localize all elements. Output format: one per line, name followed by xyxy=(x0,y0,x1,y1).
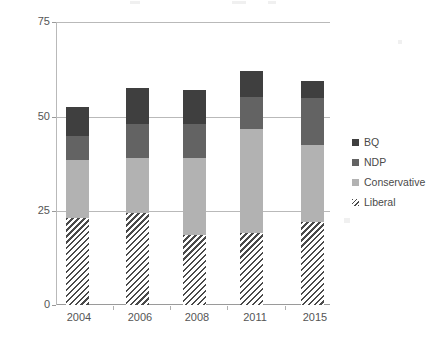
bar-segment-cons-2011[interactable] xyxy=(240,129,263,233)
bar-segment-lib-2004[interactable] xyxy=(66,218,89,305)
bar-segment-lib-2006[interactable] xyxy=(126,213,149,305)
scan-artifact xyxy=(344,218,350,223)
bar-segment-ndp-2006[interactable] xyxy=(126,124,149,158)
legend-label-conservative: Conservative xyxy=(364,176,425,188)
legend-swatch-conservative-icon xyxy=(352,179,359,186)
bar-segment-ndp-2011[interactable] xyxy=(240,97,263,129)
bar-segment-bq-2008[interactable] xyxy=(183,90,206,124)
bar-segment-bq-2015[interactable] xyxy=(301,81,324,98)
y-tick-label-75: 75 xyxy=(28,15,50,27)
legend-swatch-ndp-icon xyxy=(352,159,359,166)
bar-group-2011[interactable] xyxy=(240,71,263,305)
x-tick-label-2008: 2008 xyxy=(176,311,218,323)
bar-segment-lib-2008[interactable] xyxy=(183,235,206,305)
bar-segment-cons-2006[interactable] xyxy=(126,158,149,213)
x-tick-label-2011: 2011 xyxy=(234,311,276,323)
x-tick-label-2004: 2004 xyxy=(58,311,100,323)
bar-segment-ndp-2015[interactable] xyxy=(301,98,324,145)
x-tick-mark xyxy=(170,306,171,310)
x-tick-mark xyxy=(113,306,114,310)
y-tick-label-0: 0 xyxy=(28,298,50,310)
bar-segment-bq-2011[interactable] xyxy=(240,71,263,97)
y-tick-mark xyxy=(52,305,56,306)
legend-swatch-liberal-icon xyxy=(352,199,359,206)
y-tick-label-50: 50 xyxy=(28,110,50,122)
bar-group-2015[interactable] xyxy=(301,81,324,305)
x-tick-label-2006: 2006 xyxy=(119,311,161,323)
scan-artifact xyxy=(398,40,402,44)
bar-segment-ndp-2008[interactable] xyxy=(183,124,206,158)
x-tick-label-2015: 2015 xyxy=(294,311,336,323)
legend-item-liberal[interactable]: Liberal xyxy=(352,192,432,212)
legend-item-ndp[interactable]: NDP xyxy=(352,152,432,172)
bar-group-2008[interactable] xyxy=(183,90,206,305)
bar-segment-cons-2015[interactable] xyxy=(301,145,324,222)
bar-group-2004[interactable] xyxy=(66,107,89,305)
x-tick-mark xyxy=(285,306,286,310)
legend-item-bq[interactable]: BQ xyxy=(352,132,432,152)
bar-group-2006[interactable] xyxy=(126,88,149,305)
legend-label-liberal: Liberal xyxy=(364,196,396,208)
bar-segment-lib-2015[interactable] xyxy=(301,222,324,305)
scan-artifact xyxy=(232,1,246,4)
bar-segment-lib-2011[interactable] xyxy=(240,233,263,305)
bar-segment-cons-2004[interactable] xyxy=(66,160,89,218)
x-tick-mark xyxy=(227,306,228,310)
bar-segment-cons-2008[interactable] xyxy=(183,158,206,235)
scan-artifact xyxy=(130,1,140,4)
chart-figure: Percentage of Partisans 75 50 25 0 xyxy=(0,0,433,340)
bar-segment-bq-2006[interactable] xyxy=(126,88,149,124)
chart-legend: BQ NDP Conservative Liberal xyxy=(352,132,432,212)
bar-segment-bq-2004[interactable] xyxy=(66,107,89,136)
y-axis-line xyxy=(56,22,57,305)
legend-label-bq: BQ xyxy=(364,136,379,148)
legend-swatch-bq-icon xyxy=(352,139,359,146)
legend-label-ndp: NDP xyxy=(364,156,386,168)
bar-segment-ndp-2004[interactable] xyxy=(66,136,89,160)
plot-area xyxy=(56,22,330,305)
gridline-75 xyxy=(56,22,330,23)
scan-artifact xyxy=(268,1,276,4)
y-tick-label-25: 25 xyxy=(28,204,50,216)
legend-item-conservative[interactable]: Conservative xyxy=(352,172,432,192)
